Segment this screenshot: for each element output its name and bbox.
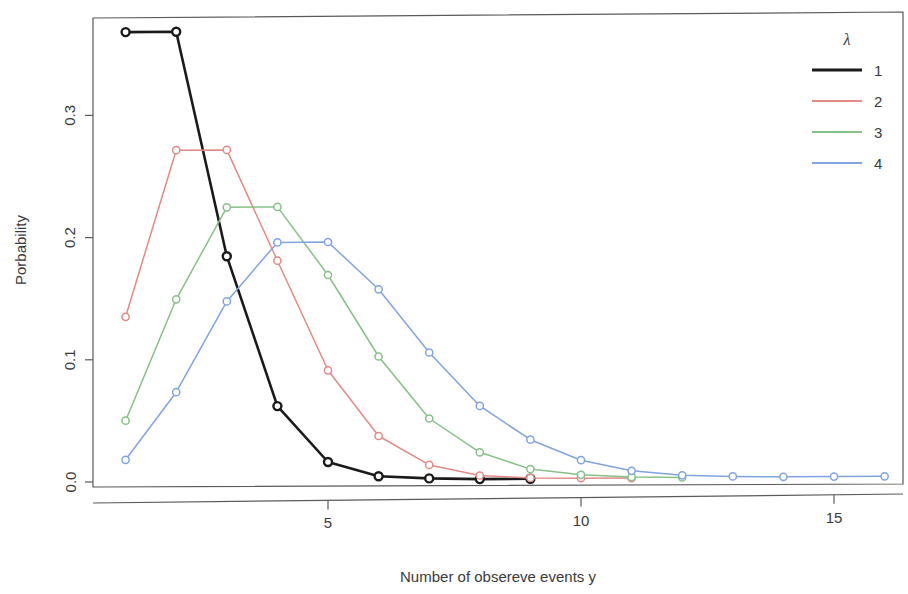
series-line: [126, 242, 885, 477]
x-axis-ticks: [328, 495, 834, 510]
data-point-marker: [122, 313, 129, 320]
data-point-marker: [274, 239, 281, 246]
data-point-marker: [476, 402, 483, 409]
data-point-marker: [274, 203, 281, 210]
data-point-marker: [122, 456, 129, 463]
y-tick-label: 0.3: [62, 105, 79, 126]
data-point-marker: [324, 458, 332, 466]
data-point-marker: [527, 474, 534, 481]
data-point-marker: [476, 472, 483, 479]
data-point-marker: [223, 252, 231, 260]
x-tick-label: 10: [573, 512, 590, 529]
data-point-marker: [324, 367, 331, 374]
chart-canvas: 0.00.10.20.3 51015 λ 1234 Number of obse…: [0, 0, 908, 594]
data-point-marker: [577, 457, 584, 464]
data-point-marker: [577, 471, 584, 478]
series-3: [122, 203, 686, 481]
data-point-marker: [780, 473, 787, 480]
data-point-marker: [173, 389, 180, 396]
legend-items: 1234: [812, 62, 882, 172]
legend-label-1: 1: [874, 62, 882, 79]
series-2: [122, 146, 635, 482]
x-axis-tick-labels: 51015: [324, 509, 843, 532]
x-axis-title: Number of obsereve events y: [400, 568, 596, 585]
series-4: [122, 238, 888, 480]
y-axis-title: Porbability: [12, 214, 29, 285]
data-point-marker: [375, 432, 382, 439]
data-point-marker: [223, 204, 230, 211]
data-point-marker: [375, 472, 383, 480]
data-point-marker: [426, 415, 433, 422]
data-point-marker: [830, 473, 837, 480]
data-series-layer: [122, 28, 889, 483]
data-point-marker: [426, 461, 433, 468]
data-point-marker: [173, 296, 180, 303]
data-point-marker: [527, 466, 534, 473]
data-point-marker: [375, 353, 382, 360]
series-1: [122, 28, 535, 483]
legend-title: λ: [843, 31, 851, 48]
series-line: [126, 150, 632, 478]
data-point-marker: [881, 473, 888, 480]
data-point-marker: [476, 449, 483, 456]
y-axis-tick-labels: 0.00.10.20.3: [62, 105, 79, 492]
data-point-marker: [274, 257, 281, 264]
data-point-marker: [679, 472, 686, 479]
data-point-marker: [122, 28, 130, 36]
x-tick-label: 15: [826, 509, 843, 526]
data-point-marker: [729, 473, 736, 480]
data-point-marker: [324, 238, 331, 245]
data-point-marker: [426, 349, 433, 356]
data-point-marker: [425, 474, 433, 482]
legend-label-4: 4: [874, 155, 882, 172]
poisson-pmf-chart: 0.00.10.20.3 51015 λ 1234 Number of obse…: [0, 0, 908, 594]
plot-border: [93, 12, 903, 487]
data-point-marker: [223, 146, 230, 153]
data-point-marker: [628, 467, 635, 474]
data-point-marker: [527, 436, 534, 443]
y-axis-ticks: [85, 115, 93, 482]
data-point-marker: [375, 286, 382, 293]
series-line: [126, 207, 683, 478]
data-point-marker: [273, 402, 281, 410]
data-point-marker: [324, 271, 331, 278]
y-tick-label: 0.0: [62, 472, 79, 493]
legend: λ 1234: [812, 31, 882, 172]
y-tick-label: 0.1: [62, 349, 79, 370]
data-point-marker: [173, 147, 180, 154]
x-tick-label: 5: [324, 514, 332, 531]
y-tick-label: 0.2: [62, 227, 79, 248]
legend-label-3: 3: [874, 124, 882, 141]
data-point-marker: [223, 298, 230, 305]
data-point-marker: [122, 417, 129, 424]
series-line: [126, 32, 531, 479]
legend-label-2: 2: [874, 93, 882, 110]
x-axis-line: [93, 494, 903, 503]
data-point-marker: [172, 28, 180, 36]
